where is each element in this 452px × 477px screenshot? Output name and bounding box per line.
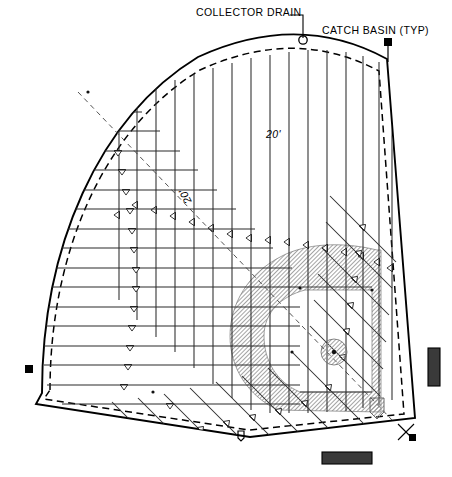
pitchers-mound	[321, 339, 347, 365]
catch-basin-bottom-right[interactable]	[398, 424, 416, 441]
dugout-bottom	[322, 452, 372, 464]
label-collector-drain: COLLECTOR DRAIN	[196, 6, 302, 18]
dugout-right	[428, 348, 440, 386]
infield-skin-area	[230, 245, 381, 416]
drawing-sheet: COLLECTOR DRAIN CATCH BASIN (TYP) 20' 20…	[0, 0, 452, 477]
label-lateral-spacing-vertical: 20'	[266, 128, 281, 140]
catch-basin-left[interactable]	[25, 365, 33, 373]
drainage-plan-drawing	[0, 0, 452, 477]
label-catch-basin: CATCH BASIN (TYP)	[322, 24, 429, 36]
